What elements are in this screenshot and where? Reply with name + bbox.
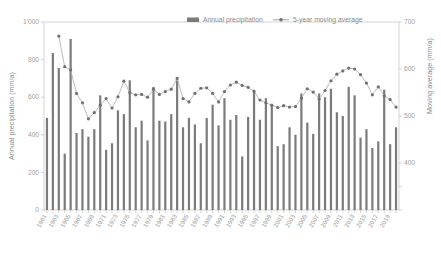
x-tick-label: 1965 xyxy=(59,213,72,229)
moving-average-point xyxy=(294,105,297,108)
moving-average-point xyxy=(235,81,238,84)
x-tick-label: 1981 xyxy=(153,213,166,229)
precipitation-chart: 02004006008001'000400500600700Annual pre… xyxy=(0,0,441,254)
y-axis-title: Annual precipitation (mm/a) xyxy=(7,72,16,160)
bar-1962 xyxy=(52,53,54,210)
bar-1986 xyxy=(194,124,196,210)
bar-2012 xyxy=(348,87,350,210)
moving-average-point xyxy=(335,73,338,76)
moving-average-point xyxy=(128,91,131,94)
moving-average-point xyxy=(329,79,332,82)
y-tick-label: 1'000 xyxy=(23,18,39,25)
x-tick-label: 1969 xyxy=(82,213,95,229)
moving-average-point xyxy=(63,65,66,68)
bar-1973 xyxy=(117,110,119,210)
y2-tick-label: 600 xyxy=(404,65,415,72)
bar-1996 xyxy=(253,90,255,210)
x-tick-label: 1993 xyxy=(224,213,237,229)
bar-2017 xyxy=(377,141,379,210)
bar-1990 xyxy=(217,125,219,210)
moving-average-point xyxy=(211,92,214,95)
moving-average-point xyxy=(199,87,202,90)
bar-2000 xyxy=(277,146,279,210)
moving-average-point xyxy=(193,92,196,95)
legend-label-5-year-moving-average: 5-year moving average xyxy=(293,16,363,24)
moving-average-point xyxy=(181,97,184,100)
bar-1991 xyxy=(223,98,225,210)
bar-1968 xyxy=(87,137,89,210)
moving-average-point xyxy=(164,90,167,93)
moving-average-point xyxy=(288,105,291,108)
y-tick-label: 400 xyxy=(28,131,39,138)
moving-average-point xyxy=(365,82,368,85)
bar-1995 xyxy=(247,117,249,210)
bar-1961 xyxy=(46,118,48,210)
x-tick-label: 1977 xyxy=(130,213,143,229)
bar-1970 xyxy=(99,95,101,210)
x-tick-label: 1971 xyxy=(94,213,107,229)
moving-average-point xyxy=(353,67,356,70)
bar-2002 xyxy=(288,127,290,210)
bar-2016 xyxy=(371,148,373,210)
bar-2011 xyxy=(342,116,344,210)
chart-canvas: 02004006008001'000400500600700Annual pre… xyxy=(0,0,441,254)
bar-1988 xyxy=(206,118,208,210)
moving-average-point xyxy=(359,73,362,76)
moving-average-point xyxy=(229,83,232,86)
x-axis: 1961196319651967196919711973197519771979… xyxy=(35,210,396,228)
y2-tick-label: 500 xyxy=(404,112,415,119)
x-tick-label: 2003 xyxy=(283,213,296,229)
moving-average-point xyxy=(394,105,397,108)
bar-1999 xyxy=(271,106,273,210)
bar-1971 xyxy=(105,150,107,210)
moving-average-point xyxy=(93,111,96,114)
bar-2007 xyxy=(318,93,320,210)
x-tick-label: 1997 xyxy=(248,213,261,229)
y2-axis-title: Moving average (mm/a) xyxy=(425,38,434,114)
bar-2015 xyxy=(365,129,367,210)
bar-1994 xyxy=(241,156,243,210)
moving-average-point xyxy=(270,104,273,107)
moving-average-point xyxy=(116,95,119,98)
bar-2001 xyxy=(283,144,285,210)
chart-legend: Annual precipitation5-year moving averag… xyxy=(187,16,363,24)
moving-average-point xyxy=(152,88,155,91)
bar-1966 xyxy=(75,133,77,210)
x-tick-label: 1963 xyxy=(47,213,60,229)
x-tick-label: 2005 xyxy=(295,213,308,229)
moving-average-point xyxy=(217,100,220,103)
moving-average-point xyxy=(300,97,303,100)
x-tick-label: 1983 xyxy=(165,213,178,229)
legend-swatch-annual-precipitation xyxy=(187,18,199,23)
x-tick-label: 1985 xyxy=(177,213,190,229)
x-tick-label: 1973 xyxy=(106,213,119,229)
moving-average-point xyxy=(252,90,255,93)
moving-average-point xyxy=(170,88,173,91)
moving-average-point xyxy=(264,101,267,104)
moving-average-point xyxy=(377,85,380,88)
y-tick-label: 200 xyxy=(28,169,39,176)
moving-average-point xyxy=(341,69,344,72)
legend-marker-5-year-moving-average xyxy=(279,18,283,22)
moving-average-point xyxy=(122,80,125,83)
x-tick-label: 1961 xyxy=(35,213,48,229)
bar-1972 xyxy=(111,143,113,210)
x-tick-label: 2015 xyxy=(354,213,367,229)
moving-average-point xyxy=(318,97,321,100)
x-tick-label: 1999 xyxy=(260,213,273,229)
moving-average-point xyxy=(241,84,244,87)
moving-average-point xyxy=(247,86,250,89)
bar-2018 xyxy=(383,90,385,210)
moving-average-point xyxy=(276,106,279,109)
moving-average-point xyxy=(105,97,108,100)
moving-average-point xyxy=(306,87,309,90)
moving-average-point xyxy=(383,94,386,97)
x-tick-label: 1975 xyxy=(118,213,131,229)
bar-2013 xyxy=(354,95,356,210)
moving-average-point xyxy=(75,92,78,95)
bar-1980 xyxy=(158,121,160,210)
legend-label-annual-precipitation: Annual precipitation xyxy=(203,16,263,24)
x-tick-label: 1991 xyxy=(212,213,225,229)
moving-average-point xyxy=(323,89,326,92)
moving-average-point xyxy=(258,98,261,101)
